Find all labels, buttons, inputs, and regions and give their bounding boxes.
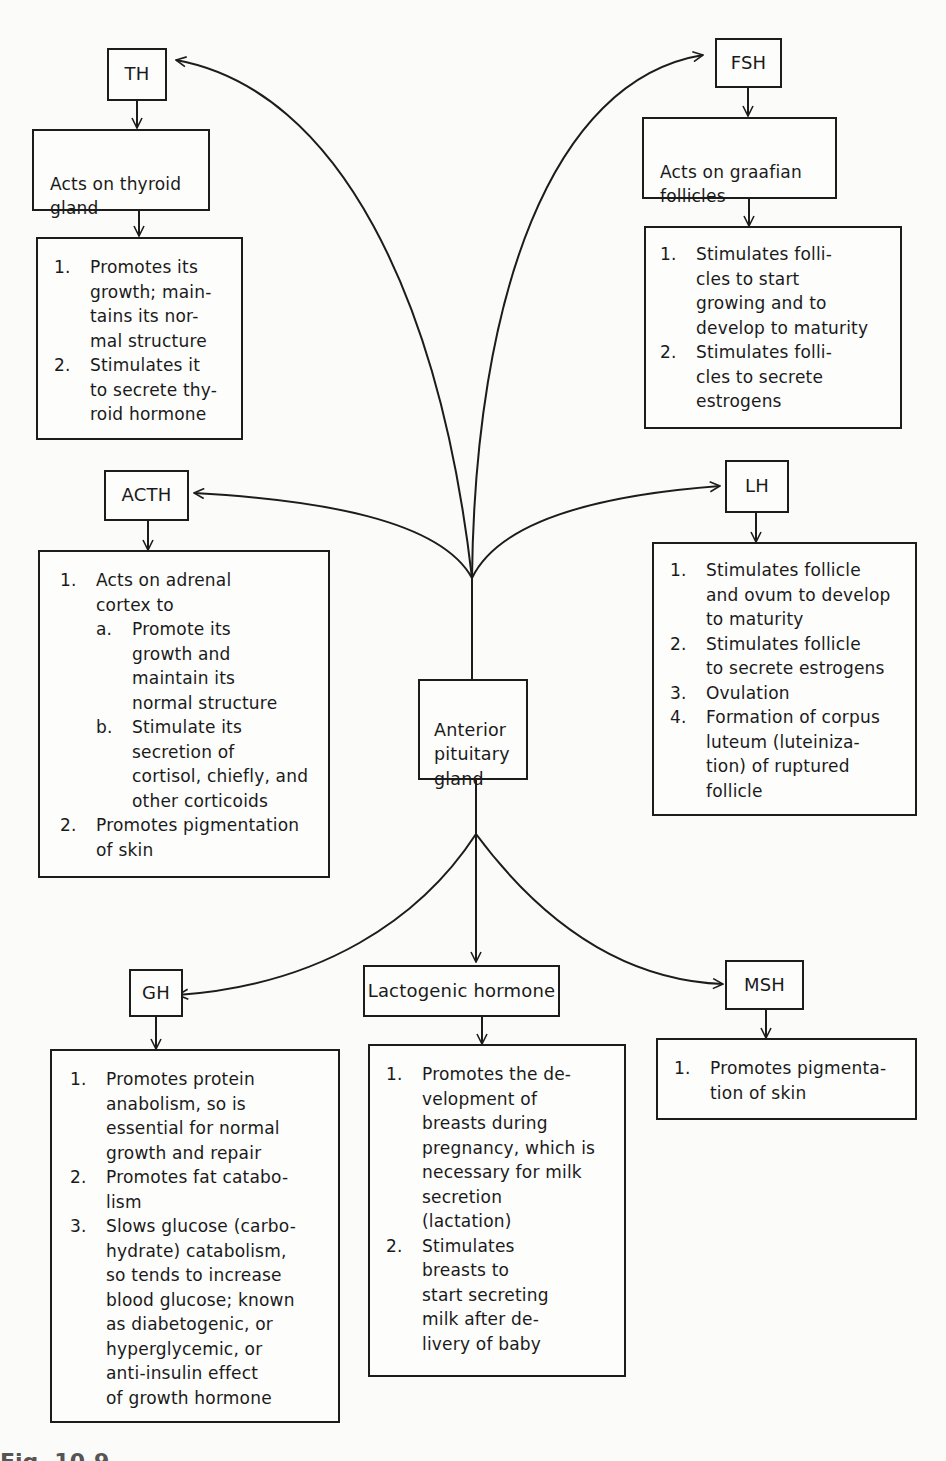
gh-effect-1: 1. Promotes protein anabolism, so is ess… bbox=[70, 1067, 328, 1165]
acth-hormone-box: ACTH bbox=[104, 470, 189, 521]
acth-effect-1a: a. Promote its growth and maintain its n… bbox=[96, 617, 318, 715]
gh-effects-box: 1. Promotes protein anabolism, so is ess… bbox=[50, 1049, 340, 1423]
gh-effect-2-text: Promotes fat catabo- lism bbox=[106, 1165, 328, 1214]
lactogenic-effect-2-text: Stimulates breasts to start secreting mi… bbox=[422, 1234, 614, 1357]
acth-effect-1a-num: a. bbox=[96, 617, 132, 715]
lh-effect-4-text: Formation of corpus luteum (luteiniza- t… bbox=[706, 705, 905, 803]
acth-effect-1b-text: Stimulate its secretion of cortisol, chi… bbox=[132, 715, 318, 813]
fsh-effects-box: 1. Stimulates folli- cles to start growi… bbox=[644, 226, 902, 429]
lh-effect-1: 1. Stimulates follicle and ovum to devel… bbox=[670, 558, 905, 632]
fsh-effect-1: 1. Stimulates folli- cles to start growi… bbox=[660, 242, 890, 340]
lh-label: LH bbox=[745, 474, 769, 499]
lactogenic-effect-1-text: Promotes the de- velopment of breasts du… bbox=[422, 1062, 614, 1234]
gh-effect-3-text: Slows glucose (carbo- hydrate) catabolis… bbox=[106, 1214, 328, 1410]
th-effect-1-text: Promotes its growth; main- tains its nor… bbox=[90, 255, 231, 353]
acth-effect-1-num: 1. bbox=[60, 568, 96, 617]
lactogenic-effects-box: 1. Promotes the de- velopment of breasts… bbox=[368, 1044, 626, 1377]
fsh-effect-1-num: 1. bbox=[660, 242, 696, 340]
center-label: Anterior pituitary gland bbox=[434, 720, 510, 789]
gh-label: GH bbox=[142, 981, 170, 1006]
msh-label: MSH bbox=[744, 973, 785, 998]
gh-effect-1-text: Promotes protein anabolism, so is essent… bbox=[106, 1067, 328, 1165]
acth-effect-1: 1. Acts on adrenal cortex to bbox=[60, 568, 318, 617]
lactogenic-effect-2: 2. Stimulates breasts to start secreting… bbox=[386, 1234, 614, 1357]
lh-effects-box: 1. Stimulates follicle and ovum to devel… bbox=[652, 542, 917, 816]
lh-effect-2-num: 2. bbox=[670, 632, 706, 681]
msh-effect-1-text: Promotes pigmenta- tion of skin bbox=[710, 1056, 905, 1105]
lh-hormone-box: LH bbox=[725, 460, 789, 513]
gh-hormone-box: GH bbox=[129, 969, 183, 1017]
lh-effect-3-num: 3. bbox=[670, 681, 706, 706]
gh-effect-1-num: 1. bbox=[70, 1067, 106, 1165]
gh-effect-2-num: 2. bbox=[70, 1165, 106, 1214]
th-effect-2: 2. Stimulates it to secrete thy- roid ho… bbox=[54, 353, 231, 427]
acth-effect-1-text: Acts on adrenal cortex to bbox=[96, 568, 318, 617]
lh-effect-1-text: Stimulates follicle and ovum to develop … bbox=[706, 558, 905, 632]
th-effects-box: 1. Promotes its growth; main- tains its … bbox=[36, 237, 243, 440]
lh-effect-2: 2. Stimulates follicle to secrete estrog… bbox=[670, 632, 905, 681]
th-effect-2-text: Stimulates it to secrete thy- roid hormo… bbox=[90, 353, 231, 427]
lactogenic-effect-1: 1. Promotes the de- velopment of breasts… bbox=[386, 1062, 614, 1234]
acth-effect-2: 2. Promotes pigmentation of skin bbox=[60, 813, 318, 862]
acth-effect-2-text: Promotes pigmentation of skin bbox=[96, 813, 318, 862]
lactogenic-effect-1-num: 1. bbox=[386, 1062, 422, 1234]
lactogenic-effect-2-num: 2. bbox=[386, 1234, 422, 1357]
msh-effect-1: 1. Promotes pigmenta- tion of skin bbox=[674, 1056, 905, 1105]
lactogenic-hormone-box: Lactogenic hormone bbox=[363, 965, 560, 1017]
lactogenic-label: Lactogenic hormone bbox=[368, 979, 556, 1004]
msh-effects-box: 1. Promotes pigmenta- tion of skin bbox=[656, 1038, 917, 1120]
th-effect-2-num: 2. bbox=[54, 353, 90, 427]
fsh-hormone-box: FSH bbox=[715, 38, 782, 88]
gh-effect-3-num: 3. bbox=[70, 1214, 106, 1410]
acth-effect-1b-num: b. bbox=[96, 715, 132, 813]
fsh-target-box: Acts on graafian follicles bbox=[642, 117, 837, 199]
fsh-effect-2-num: 2. bbox=[660, 340, 696, 414]
th-hormone-box: TH bbox=[107, 48, 167, 101]
fsh-effect-2: 2. Stimulates folli- cles to secrete est… bbox=[660, 340, 890, 414]
th-effect-1: 1. Promotes its growth; main- tains its … bbox=[54, 255, 231, 353]
acth-effect-1a-text: Promote its growth and maintain its norm… bbox=[132, 617, 318, 715]
msh-effect-1-num: 1. bbox=[674, 1056, 710, 1105]
gh-effect-2: 2. Promotes fat catabo- lism bbox=[70, 1165, 328, 1214]
lh-effect-1-num: 1. bbox=[670, 558, 706, 632]
fsh-label: FSH bbox=[731, 51, 767, 76]
lh-effect-4: 4. Formation of corpus luteum (luteiniza… bbox=[670, 705, 905, 803]
lh-effect-3: 3. Ovulation bbox=[670, 681, 905, 706]
th-target-box: Acts on thyroid gland bbox=[32, 129, 210, 211]
acth-label: ACTH bbox=[122, 483, 172, 508]
fsh-effect-2-text: Stimulates folli- cles to secrete estrog… bbox=[696, 340, 890, 414]
th-label: TH bbox=[125, 62, 150, 87]
acth-effect-1b: b. Stimulate its secretion of cortisol, … bbox=[96, 715, 318, 813]
anterior-pituitary-box: Anterior pituitary gland bbox=[418, 679, 528, 780]
lh-effect-4-num: 4. bbox=[670, 705, 706, 803]
lh-effect-2-text: Stimulates follicle to secrete estrogens bbox=[706, 632, 905, 681]
lh-effect-3-text: Ovulation bbox=[706, 681, 905, 706]
th-effect-1-num: 1. bbox=[54, 255, 90, 353]
msh-hormone-box: MSH bbox=[725, 960, 804, 1010]
gh-effect-3: 3. Slows glucose (carbo- hydrate) catabo… bbox=[70, 1214, 328, 1410]
figure-caption: Fig. 10-9 bbox=[0, 1449, 109, 1461]
fsh-effect-1-text: Stimulates folli- cles to start growing … bbox=[696, 242, 890, 340]
acth-effects-box: 1. Acts on adrenal cortex to a. Promote … bbox=[38, 550, 330, 878]
acth-effect-2-num: 2. bbox=[60, 813, 96, 862]
